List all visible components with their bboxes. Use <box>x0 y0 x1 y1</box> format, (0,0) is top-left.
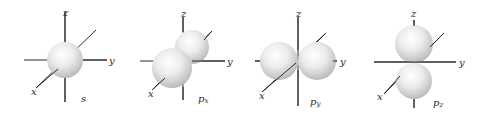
s-orbital-sphere <box>47 42 83 78</box>
px-front-lobe <box>152 48 192 88</box>
px-orbital-panel: z y x px <box>140 8 233 105</box>
z-label: z <box>295 8 302 19</box>
pz-bottom-lobe <box>396 63 432 99</box>
s-orbital-panel: z y x s <box>24 7 115 104</box>
orbital-label-py: py <box>310 96 321 108</box>
y-label: y <box>339 56 346 67</box>
y-label: y <box>226 56 233 67</box>
x-label: x <box>31 86 37 97</box>
z-label: z <box>410 8 417 19</box>
x-axis-back <box>204 31 212 40</box>
py-orbital-panel: z y x py <box>255 8 346 108</box>
orbital-diagram: z y x s z y x px z y x py <box>0 0 483 114</box>
y-label: y <box>458 57 465 68</box>
z-label: z <box>180 8 187 19</box>
py-right-lobe <box>298 42 336 80</box>
y-label: y <box>108 55 115 66</box>
x-axis-back <box>317 33 326 42</box>
orbital-label-s: s <box>81 93 86 104</box>
x-label: x <box>377 91 383 102</box>
pz-orbital-panel: z y x pz <box>374 8 465 109</box>
x-label: x <box>148 88 154 99</box>
z-label: z <box>62 7 69 18</box>
pz-top-lobe <box>395 25 433 63</box>
py-left-lobe <box>260 42 298 80</box>
orbital-label-pz: pz <box>433 97 443 109</box>
x-label: x <box>259 90 265 101</box>
x-axis-front <box>36 69 58 88</box>
orbital-label-px: px <box>198 93 208 105</box>
